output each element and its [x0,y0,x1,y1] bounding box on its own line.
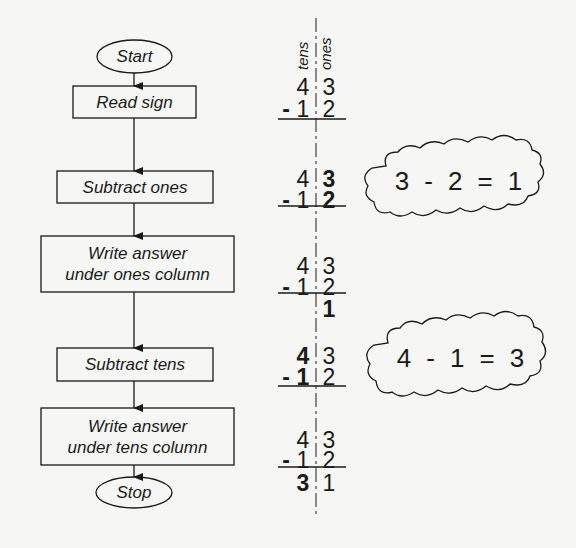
minus-sign: - [279,449,293,471]
start-node: Start [97,40,172,73]
result: 3 [510,343,525,374]
thought-cloud-1: 3 - 2 = 1 [376,152,542,210]
subtract-ones-label: Subtract ones [83,177,188,198]
start-label: Start [117,46,153,67]
minus-sign: - [279,98,293,120]
ones-answer-digit: 1 [318,298,340,320]
write-tens-label-line-2: under tens column [68,437,208,458]
ones-top-digit: 3 [318,76,340,98]
stop-node: Stop [96,477,172,508]
minus-sign: - [279,189,293,211]
result: 1 [508,166,523,197]
ones-bottom-digit: 2 [318,189,340,211]
write-ones-label-line-1: Write answer [88,243,187,264]
operand-a: 3 [395,166,410,197]
tens-bottom-digit: 1 [292,189,314,211]
ones-answer-digit: 1 [318,472,340,494]
ones-bottom-digit: 2 [318,366,340,388]
tens-column-header: tens [295,42,310,70]
thought-cloud-2: 4 - 1 = 3 [378,328,544,388]
tens-bottom-digit: 1 [292,366,314,388]
minus-sign: - [279,366,293,388]
tens-top-digit: 4 [292,76,314,98]
operand-b: 2 [448,166,463,197]
subtract-tens-label: Subtract tens [85,354,185,375]
equals-sign: = [479,343,495,374]
read-sign-node: Read sign [73,86,196,118]
read-sign-label: Read sign [96,92,173,113]
operand-a: 4 [397,343,412,374]
ones-column-header: ones [318,37,333,70]
stop-label: Stop [117,482,152,503]
subtract-ones-node: Subtract ones [57,171,213,203]
write-tens-label-line-1: Write answer [88,416,187,437]
tens-bottom-digit: 1 [292,276,314,298]
tens-answer-digit: 3 [292,472,314,494]
tens-bottom-digit: 1 [292,98,314,120]
write-tens-node: Write answer under tens column [41,408,234,465]
ones-bottom-digit: 2 [318,276,340,298]
write-ones-label-line-2: under ones column [65,264,210,285]
operand-b: 1 [450,343,465,374]
minus-sign: - [279,276,293,298]
subtract-tens-node: Subtract tens [57,348,213,381]
equals-sign: = [477,166,493,197]
tens-bottom-digit: 1 [292,449,314,471]
operator: - [426,343,436,374]
write-ones-node: Write answer under ones column [41,236,234,292]
ones-bottom-digit: 2 [318,98,340,120]
ones-bottom-digit: 2 [318,449,340,471]
operator: - [424,166,434,197]
